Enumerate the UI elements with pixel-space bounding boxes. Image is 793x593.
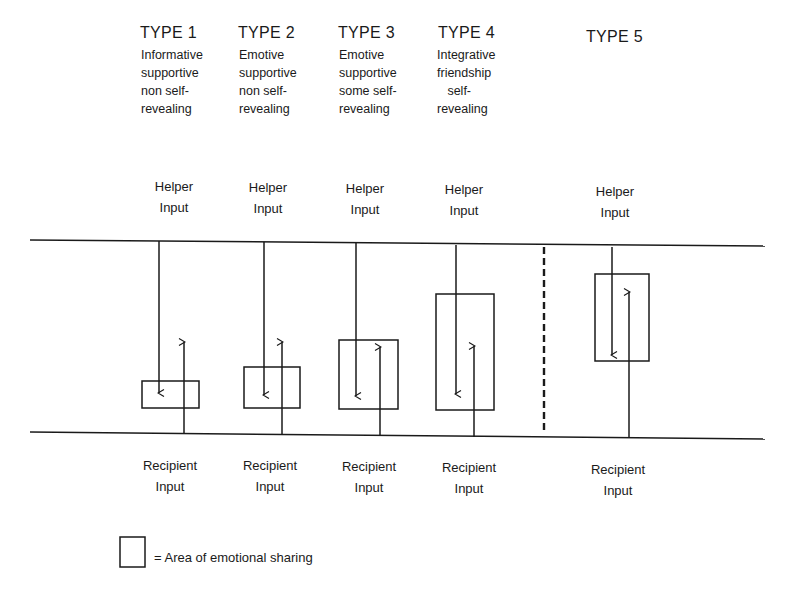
helper-baseline (30, 240, 765, 246)
legend-text: = Area of emotional sharing (154, 550, 313, 565)
type-2-recipient-label: Recipient Input (232, 455, 308, 497)
type-3-sharing-box (339, 340, 398, 409)
recipient-baseline (30, 432, 765, 439)
type-3-recipient-label: Recipient Input (331, 456, 407, 498)
type-5-sharing-box (595, 274, 649, 361)
diagram-canvas (0, 0, 793, 593)
type-1-sharing-box (142, 381, 199, 408)
type-1-recipient-label: Recipient Input (132, 455, 208, 497)
legend-box-icon (120, 537, 145, 567)
type-2-sharing-box (244, 367, 300, 408)
type-4-recipient-label: Recipient Input (431, 457, 507, 499)
type-5-recipient-label: Recipient Input (580, 459, 656, 501)
type-4-sharing-box (436, 294, 494, 410)
